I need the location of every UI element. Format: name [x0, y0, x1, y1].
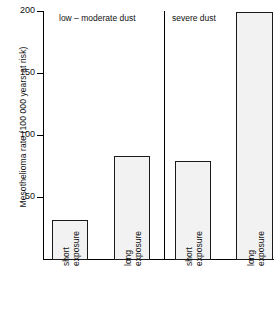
y-tick-mark-150	[37, 73, 43, 74]
group-divider-line	[164, 11, 165, 260]
category-label-line2: exposure	[72, 222, 82, 266]
category-label-severe-short: short exposure	[185, 222, 204, 266]
y-tick-label-50: 50	[5, 192, 35, 201]
group-label-low-moderate-dust: low – moderate dust	[59, 13, 136, 23]
y-tick-mark-200	[37, 11, 43, 12]
category-label-line2: exposure	[195, 222, 205, 266]
category-label-low-moderate-short: short exposure	[62, 222, 81, 266]
y-tick-mark-100	[37, 135, 43, 136]
group-label-severe-dust: severe dust	[172, 13, 216, 23]
mesothelioma-bar-chart: Mesothelioma rate (100 000 years at risk…	[0, 0, 276, 310]
category-label-low-moderate-long: long exposure	[124, 222, 143, 266]
category-label-line2: exposure	[257, 222, 267, 266]
y-tick-label-100: 100	[5, 130, 35, 139]
y-tick-label-150: 150	[5, 68, 35, 77]
category-label-line2: exposure	[134, 222, 144, 266]
y-tick-label-200: 200	[5, 6, 35, 15]
category-label-severe-long: long exposure	[247, 222, 266, 266]
y-axis-line	[43, 11, 44, 260]
y-tick-mark-50	[37, 197, 43, 198]
